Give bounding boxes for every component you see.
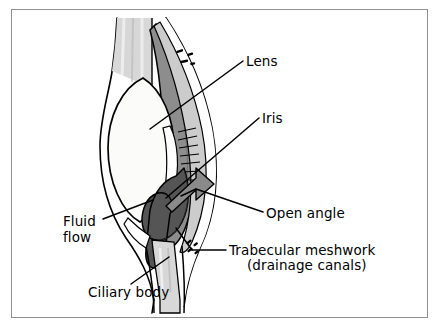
label-iris: Iris	[262, 111, 283, 126]
label-fluid: Fluid	[63, 214, 96, 229]
label-ciliary-body: Ciliary body	[88, 285, 169, 300]
label-open-angle: Open angle	[266, 206, 345, 221]
label-trabecular-meshwork: Trabecular meshwork	[229, 243, 375, 258]
sclera-band-top	[112, 18, 152, 88]
eye-anatomy-illustration	[0, 0, 440, 329]
label-drainage-canals: (drainage canals)	[247, 258, 367, 273]
diagram-page: Lens Iris Open angle Trabecular meshwork…	[0, 0, 440, 329]
label-flow: flow	[63, 230, 91, 245]
label-lens: Lens	[246, 54, 278, 69]
ciliary-body-band	[152, 240, 180, 313]
